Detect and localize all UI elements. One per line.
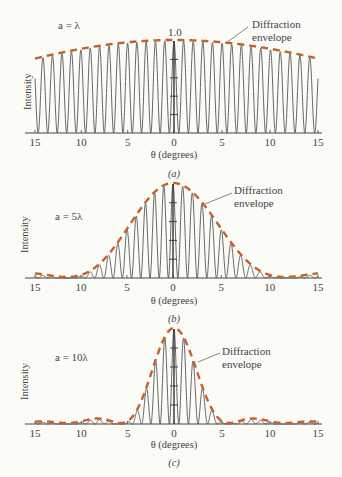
panel-label: (a) <box>168 168 181 180</box>
x-tick-label: 10 <box>76 136 88 148</box>
envelope-label-line2: envelope <box>222 358 262 370</box>
x-tick-label: 10 <box>76 281 88 293</box>
envelope-pointer <box>198 353 220 362</box>
x-tick-label: 0 <box>171 427 177 439</box>
envelope-label-line2: envelope <box>234 197 274 209</box>
diffraction-figure: a = λ 1.0 Diffraction envelope Intensity… <box>0 0 342 477</box>
x-tick-label: 15 <box>313 427 325 439</box>
x-tick-label: 5 <box>125 427 131 439</box>
x-axis-label: θ (degrees) <box>151 295 198 307</box>
envelope-pointer <box>205 193 232 204</box>
x-tick-label: 5 <box>219 427 225 439</box>
x-tick-label: 5 <box>219 136 225 148</box>
x-tick-label: 5 <box>125 136 131 148</box>
y-peak-label: 1.0 <box>168 26 182 38</box>
x-tick-label: 15 <box>30 281 42 293</box>
envelope-pointer <box>226 27 248 43</box>
envelope-label-line1: Diffraction <box>234 184 283 196</box>
envelope-label-line1: Diffraction <box>222 345 271 357</box>
x-tick-label: 0 <box>171 136 177 148</box>
envelope-label-line1: Diffraction <box>252 18 301 30</box>
x-tick-label: 0 <box>170 281 176 293</box>
annotation-b: a = 5λ <box>55 210 83 222</box>
x-tick-labels: 15105051015 <box>30 136 325 148</box>
x-axis-label: θ (degrees) <box>151 439 198 451</box>
y-axis-label: Intensity <box>22 73 33 110</box>
x-tick-label: 15 <box>313 136 325 148</box>
panel-label: (b) <box>168 313 181 325</box>
x-axis-label: θ (degrees) <box>151 149 198 161</box>
intensity-curve <box>35 41 318 133</box>
x-tick-label: 10 <box>264 281 276 293</box>
x-tick-labels: 15105051015 <box>30 427 325 439</box>
panel-b: a = 5λ Diffraction envelope Intensity 15… <box>19 183 324 325</box>
intensity-curve <box>35 184 318 278</box>
x-tick-label: 10 <box>265 427 277 439</box>
envelope-label-line2: envelope <box>252 31 292 43</box>
annotation-a: a = λ <box>58 19 81 31</box>
x-tick-label: 5 <box>124 281 130 293</box>
y-axis-label: Intensity <box>19 216 30 253</box>
panel-a: a = λ 1.0 Diffraction envelope Intensity… <box>22 18 324 180</box>
x-tick-labels: 15105051015 <box>30 281 325 293</box>
x-tick-label: 15 <box>313 281 325 293</box>
annotation-c: a = 10λ <box>55 351 89 363</box>
y-axis-label: Intensity <box>19 363 30 400</box>
x-tick-label: 5 <box>219 281 225 293</box>
x-tick-label: 15 <box>30 136 42 148</box>
panel-label: (c) <box>168 457 180 469</box>
x-tick-label: 10 <box>76 427 88 439</box>
intensity-curve <box>35 329 318 424</box>
x-tick-label: 15 <box>30 427 42 439</box>
panel-c: a = 10λ Diffraction envelope Intensity 1… <box>19 328 324 469</box>
x-tick-label: 10 <box>265 136 277 148</box>
